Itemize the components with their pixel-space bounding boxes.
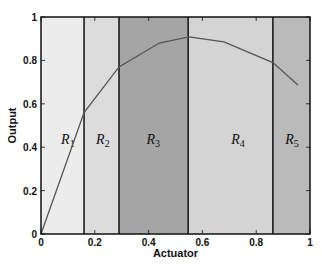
y-tick-label: 0.4 xyxy=(23,142,37,153)
x-tick-label: 0.2 xyxy=(88,237,102,248)
x-tick-label: 0 xyxy=(38,237,44,248)
region-4-fill xyxy=(188,17,273,234)
y-tick-label: 1 xyxy=(31,12,37,23)
y-tick-label: 0.6 xyxy=(23,99,37,110)
y-tick-label: 0.8 xyxy=(23,55,37,66)
chart: R1R2R3R4R5 00.20.40.60.81 00.20.40.60.81… xyxy=(0,0,322,267)
x-tick-label: 1 xyxy=(307,237,313,248)
region-1-fill xyxy=(41,17,84,234)
x-tick-label: 0.8 xyxy=(249,237,263,248)
y-tick-label: 0.2 xyxy=(23,186,37,197)
region-2-fill xyxy=(84,17,119,234)
regions xyxy=(41,17,310,234)
y-tick-labels: 00.20.40.60.81 xyxy=(23,12,37,240)
region-5-fill xyxy=(273,17,310,234)
x-axis-label: Actuator xyxy=(153,247,199,259)
region-3-fill xyxy=(119,17,188,234)
y-tick-label: 0 xyxy=(31,229,37,240)
y-axis-label: Output xyxy=(6,107,18,143)
